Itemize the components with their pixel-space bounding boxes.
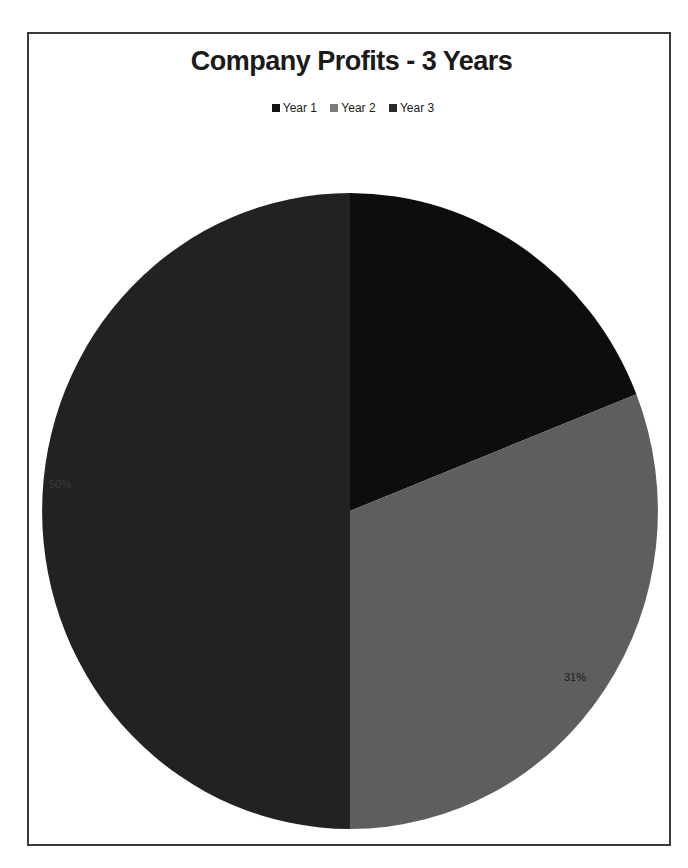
data-label-year-3: 50% (49, 478, 71, 490)
pie-slice-year-3 (42, 193, 350, 829)
pie-chart: 31% 50% (0, 0, 688, 868)
data-label-year-2: 31% (564, 671, 586, 683)
